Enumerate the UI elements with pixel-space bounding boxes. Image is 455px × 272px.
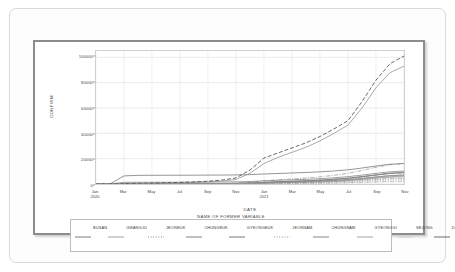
legend-swatch: [186, 225, 202, 229]
legend-item-busan[interactable]: BUSAN: [74, 225, 107, 230]
plot-area: [95, 50, 405, 185]
legend-swatch: [229, 225, 245, 229]
legend-swatch: [313, 225, 329, 229]
y-tick-mark: [93, 82, 95, 83]
x-tick-label: Nov: [401, 189, 408, 194]
x-tick-label: Jan2020: [90, 189, 99, 199]
legend-label: GYEONGBUK: [247, 225, 273, 230]
legend-label: JEONBUK: [166, 225, 185, 230]
y-axis-tick-labels: 020000400006000080000100000: [51, 50, 93, 185]
series-line: [96, 66, 404, 184]
y-tick-mark: [93, 133, 95, 134]
legend-label: CHUNGBUK: [204, 225, 227, 230]
legend-swatch: [108, 225, 124, 229]
x-tick-label: May: [317, 189, 325, 194]
legend-item-jeonnam[interactable]: JEONNAM: [273, 225, 312, 230]
x-tick-label: Jan2021: [260, 189, 269, 199]
screenshot-card: CONFIRM 020000400006000080000100000 Jan2…: [9, 8, 446, 263]
legend-item-chungbuk[interactable]: CHUNGBUK: [185, 225, 227, 230]
x-axis-tick-labels: Jan2020MarMayJulSepNovJan2021MarMayJulSe…: [95, 189, 405, 205]
chart-frame: CONFIRM 020000400006000080000100000 Jan2…: [33, 40, 425, 235]
legend-label: SEJONG: [416, 225, 433, 230]
series-lines: [96, 51, 404, 184]
y-tick-label: 60000: [81, 105, 93, 110]
plot-wrapper: CONFIRM 020000400006000080000100000 Jan2…: [37, 44, 425, 235]
legend-item-gyeonggi[interactable]: GYEONGGI: [356, 225, 397, 230]
legend-item-daegu[interactable]: DAEGU: [433, 225, 455, 230]
legend-swatch: [75, 225, 91, 229]
chart-inner-surface: CONFIRM 020000400006000080000100000 Jan2…: [37, 44, 421, 231]
legend-entries: BUSANGWANGJUJEONBUKCHUNGBUKGYEONGBUKJEON…: [74, 223, 388, 249]
legend-swatch: [148, 225, 164, 229]
legend-item-chungnam[interactable]: CHUNGNAM: [312, 225, 355, 230]
legend-swatch: [434, 225, 450, 229]
x-tick-label: Mar: [289, 189, 296, 194]
legend: NAME OF FORMER VARIABLE BUSANGWANGJUJEON…: [70, 219, 392, 252]
y-tick-mark: [93, 107, 95, 108]
legend-label: CHUNGNAM: [331, 225, 355, 230]
y-tick-label: 20000: [81, 157, 93, 162]
x-tick-label: Mar: [120, 189, 127, 194]
legend-item-gwangju[interactable]: GWANGJU: [107, 225, 147, 230]
x-axis-title: DATE: [95, 207, 405, 212]
y-tick-mark: [93, 159, 95, 160]
legend-label: GYEONGGI: [375, 225, 397, 230]
legend-label: BUSAN: [93, 225, 107, 230]
legend-label: GWANGJU: [126, 225, 147, 230]
legend-label: JEONNAM: [292, 225, 312, 230]
legend-item-gyeongbuk[interactable]: GYEONGBUK: [228, 225, 273, 230]
legend-swatch: [398, 225, 414, 229]
x-tick-label: Jul: [346, 189, 351, 194]
legend-item-jeonbuk[interactable]: JEONBUK: [147, 225, 185, 230]
x-tick-label: Jul: [177, 189, 182, 194]
legend-title: NAME OF FORMER VARIABLE: [71, 214, 391, 219]
legend-swatch: [357, 225, 373, 229]
y-tick-label: 80000: [81, 80, 93, 85]
y-tick-label: 40000: [81, 131, 93, 136]
x-tick-label: Nov: [232, 189, 239, 194]
series-line: [96, 56, 404, 184]
legend-swatch: [274, 225, 290, 229]
y-tick-mark: [93, 185, 95, 186]
x-tick-label: Sep: [373, 189, 380, 194]
y-tick-mark: [93, 56, 95, 57]
x-tick-label: Sep: [204, 189, 211, 194]
y-tick-label: 100000: [79, 54, 93, 59]
legend-item-sejong[interactable]: SEJONG: [397, 225, 433, 230]
x-tick-label: May: [147, 189, 155, 194]
